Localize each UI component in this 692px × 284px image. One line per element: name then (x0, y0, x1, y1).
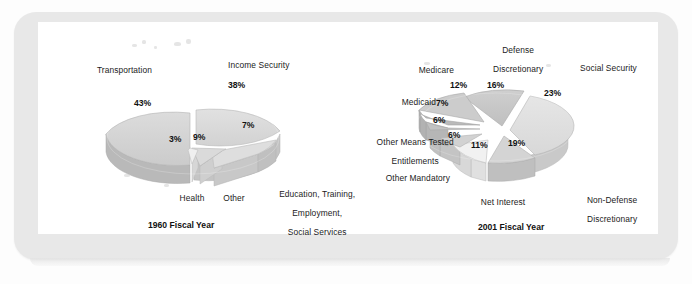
slice-label-social-security: Social Security (580, 64, 637, 74)
scan-speck (164, 184, 169, 187)
education-line-3: Social Services (288, 227, 347, 237)
page-drop-shadow (30, 258, 670, 266)
scan-speck (186, 39, 191, 44)
slice-label-education: Education, Training, Employment, Social … (250, 180, 360, 247)
slice-value-transportation: 43% (134, 98, 151, 108)
defense-line-1: Defense (502, 45, 534, 55)
scanned-page-frame: Transportation Income Security Health Ot… (14, 12, 678, 260)
figure-page: Transportation Income Security Health Ot… (0, 0, 692, 284)
slice-label-net-interest: Net Interest (464, 198, 542, 208)
scan-speck (174, 42, 181, 46)
education-line-1: Education, Training, (279, 189, 355, 199)
slice-value-non-defense: 19% (508, 138, 525, 148)
slice-value-defense: 16% (487, 80, 504, 90)
pie-chart-2001: Defense Discretionary Social Security No… (368, 22, 688, 254)
slice-value-net-interest: 11% (471, 140, 488, 150)
nondefense-line-1: Non-Defense (587, 195, 637, 205)
slice-label-medicaid: Medicaid (362, 98, 436, 108)
scan-speck (132, 44, 137, 47)
slice-value-income-security: 38% (228, 80, 245, 90)
nondefense-line-2: Discretionary (587, 214, 637, 224)
chart-2001-caption: 2001 Fiscal Year (478, 222, 544, 232)
education-line-2: Employment, (292, 208, 342, 218)
slice-label-defense-discretionary: Defense Discretionary (456, 36, 556, 84)
chart-1960-caption: 1960 Fiscal Year (148, 220, 214, 230)
slice-value-social-security: 23% (544, 88, 561, 98)
pie-chart-1960: Transportation Income Security Health Ot… (62, 22, 372, 254)
scan-speck (154, 46, 157, 49)
scan-speck (142, 40, 146, 44)
slice-label-income-security: Income Security (228, 61, 290, 71)
slice-label-medicare: Medicare (378, 66, 454, 76)
slice-value-education: 7% (242, 120, 254, 130)
slice-value-medicare: 12% (450, 80, 467, 90)
slice-value-health: 3% (169, 134, 181, 144)
omte-line-1: Other Means Tested (377, 137, 454, 147)
chart-panel: Transportation Income Security Health Ot… (38, 22, 658, 234)
omte-line-2: Entitlements (391, 156, 438, 166)
slice-value-omte: 6% (433, 115, 445, 125)
slice-value-medicaid: 7% (436, 98, 448, 108)
scan-speck (124, 174, 130, 177)
slice-value-other: 9% (193, 132, 205, 142)
slice-label-transportation: Transportation (68, 66, 152, 76)
slice-label-other-means-tested-entitlements: Other Means Tested Entitlements (352, 128, 454, 176)
defense-line-2: Discretionary (493, 64, 543, 74)
slice-label-non-defense-discretionary: Non-Defense Discretionary (554, 186, 646, 234)
slice-value-other-mandatory: 6% (448, 130, 460, 140)
